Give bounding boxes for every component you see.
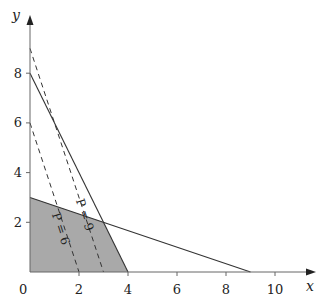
y-axis-label: y [11,7,21,23]
x-tick-label-6: 6 [173,282,181,297]
x-axis-label: x [306,278,314,294]
y-tick-label-8: 8 [14,66,22,81]
y-ticks [26,73,30,222]
x-tick-label-8: 8 [222,282,230,297]
origin-label: 0 [19,282,27,297]
y-tick-label-4: 4 [14,165,22,180]
x-tick-label-4: 4 [124,282,132,297]
y-axis-arrow-icon [27,15,34,25]
x-axis-arrow-icon [306,269,316,276]
x-tick-label-2: 2 [75,282,83,297]
x-ticks [79,272,275,276]
y-tick-label-2: 2 [14,215,22,230]
y-tick-label-6: 6 [14,115,22,130]
x-tick-label-10: 10 [267,282,284,297]
chart-canvas: 0 2 4 6 8 10 2 4 6 8 x y P = 6 P = 9 [0,0,325,307]
